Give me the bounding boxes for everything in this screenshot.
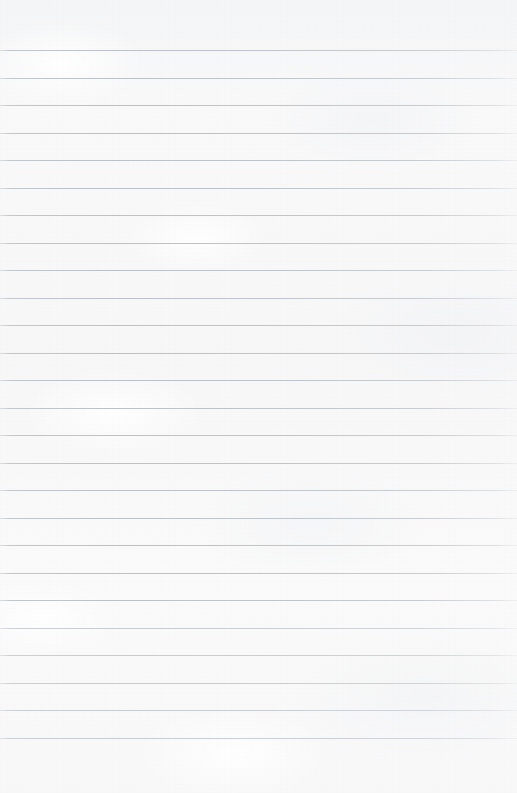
ruled-lines-layer bbox=[0, 0, 517, 793]
line-17 bbox=[0, 490, 517, 491]
line-21 bbox=[0, 600, 517, 601]
line-5 bbox=[0, 160, 517, 161]
line-11 bbox=[0, 325, 517, 326]
line-6 bbox=[0, 188, 517, 189]
line-19 bbox=[0, 545, 517, 546]
line-13 bbox=[0, 380, 517, 381]
line-23 bbox=[0, 655, 517, 656]
line-12 bbox=[0, 353, 517, 354]
line-14 bbox=[0, 408, 517, 409]
line-22 bbox=[0, 628, 517, 629]
line-4 bbox=[0, 133, 517, 134]
line-15 bbox=[0, 435, 517, 436]
line-1 bbox=[0, 50, 517, 51]
line-8 bbox=[0, 243, 517, 244]
line-18 bbox=[0, 518, 517, 519]
line-7 bbox=[0, 215, 517, 216]
lined-paper-page bbox=[0, 0, 517, 793]
line-24 bbox=[0, 683, 517, 684]
line-20 bbox=[0, 573, 517, 574]
line-16 bbox=[0, 463, 517, 464]
line-10 bbox=[0, 298, 517, 299]
line-26 bbox=[0, 738, 517, 739]
line-25 bbox=[0, 710, 517, 711]
line-9 bbox=[0, 270, 517, 271]
line-3 bbox=[0, 105, 517, 106]
line-2 bbox=[0, 78, 517, 79]
